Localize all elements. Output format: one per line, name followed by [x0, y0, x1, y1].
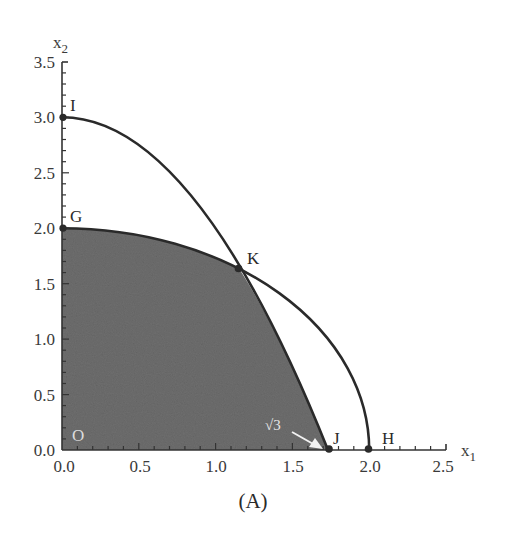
x-tick-label: 2.5 [432, 457, 453, 476]
sqrt3-annotation: √3 [265, 417, 281, 433]
label-j: J [333, 429, 340, 448]
y-axis-title: x2 [53, 33, 68, 56]
point-h [365, 445, 373, 453]
y-tick-label: 0.0 [34, 441, 55, 460]
point-k [235, 265, 243, 273]
x-tick-label: 1.0 [205, 457, 226, 476]
y-tick-label: 3.5 [34, 53, 55, 72]
y-tick-label: 1.0 [34, 330, 55, 349]
label-k: K [247, 249, 260, 268]
x-tick-labels: 0.0 0.5 1.0 1.5 2.0 2.5 [53, 457, 453, 476]
y-tick-labels: 0.0 0.5 1.0 1.5 2.0 2.5 3.0 3.5 [34, 53, 55, 460]
y-tick-label: 2.0 [34, 219, 55, 238]
x-tick-label: 2.0 [359, 457, 380, 476]
y-tick-label: 1.5 [34, 275, 55, 294]
label-g: G [70, 207, 82, 226]
y-tick-label: 0.5 [34, 386, 55, 405]
point-i [59, 114, 66, 121]
label-o: O [72, 426, 84, 445]
x-tick-label: 1.5 [282, 457, 303, 476]
shaded-region [62, 228, 328, 450]
label-h: H [382, 429, 394, 448]
label-i: I [70, 96, 76, 115]
figure-caption: (A) [238, 489, 267, 513]
chart-figure: 0.0 0.5 1.0 1.5 2.0 2.5 3.0 3.5 0.0 0.5 … [0, 0, 514, 540]
y-tick-label: 3.0 [34, 108, 55, 127]
x-axis-title: x1 [461, 441, 476, 464]
x-tick-label: 0.5 [129, 457, 150, 476]
point-g [59, 225, 66, 232]
x-tick-label: 0.0 [53, 457, 74, 476]
point-j [325, 445, 333, 453]
y-tick-label: 2.5 [34, 164, 55, 183]
